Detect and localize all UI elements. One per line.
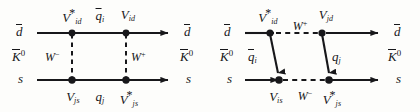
- internal-quark-label-bottom: qj: [96, 90, 105, 105]
- vertex-top-left: [266, 29, 273, 36]
- external-label-out-bottom: s: [186, 72, 191, 85]
- vertex-label-top-right: Vid: [121, 8, 136, 23]
- external-label-out-top: d: [184, 25, 191, 38]
- k-bar-glyph: K: [180, 50, 189, 63]
- external-label-out-top: d: [394, 25, 401, 38]
- q-bar-glyph: q: [96, 9, 103, 22]
- boson-label-w-minus: W−: [298, 90, 313, 102]
- vertex-top-left: [69, 30, 76, 37]
- diagram-left-lines: [0, 0, 210, 112]
- d-bar-glyph: d: [224, 25, 231, 38]
- vertex-label-bottom-right: V*js: [323, 90, 342, 108]
- vertex-label-top-left: V*id: [258, 8, 278, 26]
- vertex-label-top-right: Vjd: [319, 8, 334, 23]
- d-bar-glyph: d: [184, 25, 191, 38]
- boson-label-w-minus: W−: [45, 51, 60, 63]
- boson-label-w-plus: W+: [293, 20, 308, 32]
- q-bar-glyph: q: [248, 50, 255, 63]
- vertex-bottom-left: [68, 76, 75, 83]
- boson-label-w-plus: W+: [131, 51, 146, 63]
- internal-quark-line-left: [270, 34, 278, 73]
- external-label-meson-in: K0: [220, 49, 233, 63]
- internal-quark-label-top: qi: [96, 9, 105, 24]
- external-label-out-bottom: s: [396, 72, 401, 85]
- vertex-bottom-left: [275, 76, 283, 84]
- k-bar-glyph: K: [388, 50, 397, 63]
- external-label-meson-in: K0: [12, 49, 25, 63]
- external-label-in-top: d: [224, 25, 231, 38]
- vertex-label-top-left: V*id: [62, 8, 82, 26]
- external-label-in-top: d: [16, 25, 23, 38]
- vertex-label-bottom-left: Vis: [269, 90, 283, 105]
- k-bar-glyph: K: [220, 50, 229, 63]
- external-label-in-bottom: s: [18, 72, 23, 85]
- vertex-top-right: [123, 30, 130, 37]
- vertex-top-right: [318, 29, 325, 36]
- internal-quark-line-right: [322, 34, 329, 73]
- d-bar-glyph: d: [394, 25, 401, 38]
- feynman-diagram-figure: d K0 s d K0 s V*id Vid Vjs V*js: [0, 0, 420, 112]
- box-diagram-left: d K0 s d K0 s V*id Vid Vjs V*js: [0, 0, 210, 112]
- external-label-in-bottom: s: [227, 72, 232, 85]
- d-bar-glyph: d: [16, 25, 23, 38]
- internal-quark-label-right: qj: [332, 50, 341, 65]
- vertex-bottom-right: [325, 76, 333, 84]
- external-label-meson-out: K0: [180, 49, 193, 63]
- vertex-label-bottom-left: Vjs: [66, 90, 80, 105]
- external-label-meson-out: K0: [388, 49, 401, 63]
- internal-quark-label-left: qi: [248, 50, 257, 65]
- k-bar-glyph: K: [12, 50, 21, 63]
- vertex-bottom-right: [122, 76, 129, 83]
- box-diagram-right: d K0 s d K0 s V*id Vjd Vis V*js: [210, 0, 420, 112]
- vertex-label-bottom-right: V*js: [120, 90, 139, 108]
